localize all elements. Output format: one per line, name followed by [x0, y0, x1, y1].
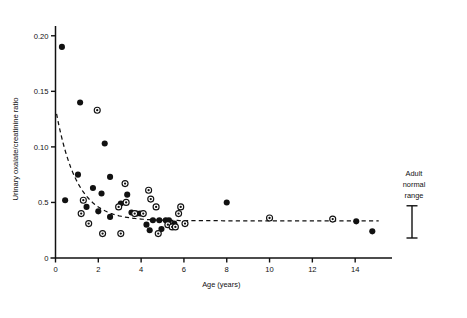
x-tick-label-3: 6 — [182, 265, 186, 274]
data-point-filled-24 — [224, 199, 230, 205]
scatter-plot-svg: 0.50.100.150.20002468101214Age (years)Ur… — [0, 0, 467, 318]
x-tick-label-5: 10 — [265, 265, 273, 274]
data-point-bullseye-center-2 — [82, 199, 84, 201]
x-tick-label-7: 14 — [351, 265, 359, 274]
data-point-filled-25 — [369, 228, 375, 234]
data-point-filled-3 — [75, 172, 81, 178]
data-point-bullseye-center-21 — [268, 217, 270, 219]
data-point-filled-0 — [59, 44, 65, 50]
data-point-filled-7 — [98, 191, 104, 197]
data-point-bullseye-center-17 — [174, 226, 176, 228]
series-bullseye-circle — [78, 107, 336, 236]
fitted-decay-curve — [57, 114, 379, 221]
data-point-bullseye-center-3 — [118, 206, 120, 208]
y-tick-label-1: 0.10 — [34, 143, 49, 152]
data-point-bullseye-center-6 — [101, 232, 103, 234]
data-point-bullseye-center-12 — [150, 198, 152, 200]
data-point-filled-16 — [143, 222, 149, 228]
data-point-bullseye-center-7 — [120, 232, 122, 234]
data-point-filled-9 — [95, 208, 101, 214]
y-origin-label: 0 — [44, 254, 48, 263]
plot-canvas: 0.50.100.150.20002468101214Age (years)Ur… — [0, 0, 467, 318]
x-axis-title: Age (years) — [202, 280, 240, 289]
data-point-filled-4 — [107, 174, 113, 180]
data-point-filled-5 — [62, 197, 68, 203]
x-tick-label-1: 2 — [96, 265, 100, 274]
data-point-filled-8 — [83, 204, 89, 210]
data-point-bullseye-center-8 — [125, 201, 127, 203]
data-point-bullseye-center-19 — [180, 206, 182, 208]
data-point-filled-17 — [147, 227, 153, 233]
y-axis-title: Urinary oxalate/creatinine ratio — [11, 98, 20, 201]
data-point-filled-10 — [107, 214, 113, 220]
data-point-bullseye-center-0 — [96, 109, 98, 111]
x-tick-label-6: 12 — [308, 265, 316, 274]
data-point-filled-18 — [150, 217, 156, 223]
figure-scatter-oxalate-vs-age: 0.50.100.150.20002468101214Age (years)Ur… — [0, 0, 467, 318]
data-point-bullseye-center-20 — [184, 222, 186, 224]
data-point-bullseye-center-11 — [147, 189, 149, 191]
data-point-bullseye-center-9 — [134, 212, 136, 214]
x-tick-label-0: 0 — [53, 265, 57, 274]
data-point-bullseye-center-15 — [167, 224, 169, 226]
data-point-bullseye-center-10 — [142, 212, 144, 214]
y-tick-label-2: 0.15 — [34, 87, 49, 96]
data-point-filled-12 — [124, 192, 130, 198]
adult-normal-range-line-0: Adult — [406, 169, 423, 178]
series-filled-circle — [59, 44, 375, 235]
data-point-filled-26 — [353, 218, 359, 224]
data-point-bullseye-center-22 — [332, 218, 334, 220]
data-point-bullseye-center-14 — [157, 232, 159, 234]
y-tick-label-3: 0.20 — [34, 32, 49, 41]
data-point-bullseye-center-1 — [124, 182, 126, 184]
data-point-filled-2 — [102, 141, 108, 147]
data-point-bullseye-center-18 — [177, 212, 179, 214]
y-tick-label-0: 0.5 — [38, 198, 49, 207]
adult-normal-range-line-1: normal — [403, 180, 426, 189]
data-point-filled-6 — [90, 185, 96, 191]
data-point-filled-1 — [77, 99, 83, 105]
adult-normal-range-line-2: range — [405, 191, 424, 200]
data-point-bullseye-center-5 — [88, 222, 90, 224]
data-point-filled-19 — [156, 217, 162, 223]
x-tick-label-2: 4 — [139, 265, 143, 274]
data-point-bullseye-center-4 — [80, 212, 82, 214]
data-point-bullseye-center-13 — [155, 206, 157, 208]
x-tick-label-4: 8 — [225, 265, 229, 274]
